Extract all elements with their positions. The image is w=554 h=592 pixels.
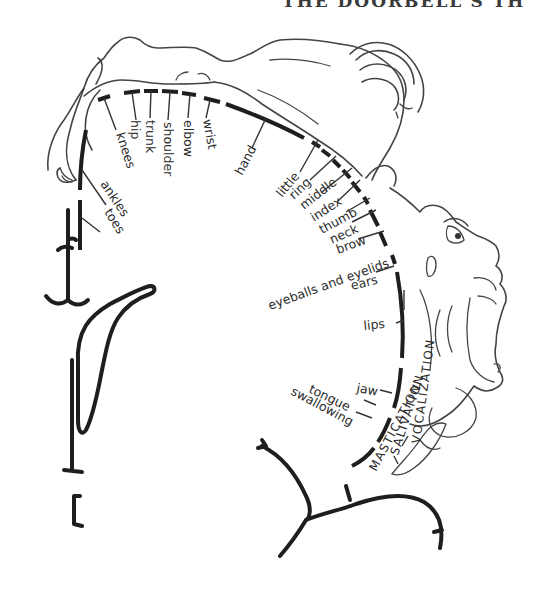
label-elbow: elbow [181, 120, 196, 157]
label-lips: lips [363, 316, 386, 333]
label-hip: hip [128, 120, 143, 139]
label-jaw: jaw [354, 380, 379, 399]
brainstem-branches [258, 440, 442, 556]
body-outline [48, 37, 404, 182]
label-shoulder: shoulder [161, 122, 176, 177]
left-hooks [46, 210, 155, 526]
homunculus-diagram: toes ankles knees hip trunk shoulder elb… [0, 0, 554, 592]
label-wrist: wrist [200, 118, 220, 150]
label-trunk: trunk [143, 120, 158, 154]
label-hand: hand [231, 143, 259, 178]
